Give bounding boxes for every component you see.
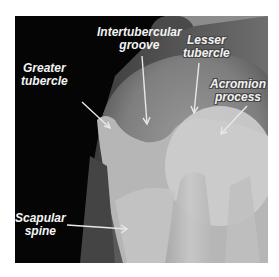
label-greater-tubercle: Greater tubercle (21, 62, 68, 88)
label-lesser-tubercle: Lesser tubercle (183, 34, 230, 60)
label-scapular-spine: Scapular spine (15, 212, 66, 238)
label-intertubercular-groove: Intertubercular groove (97, 26, 182, 52)
label-acromion-process: Acromion process (210, 78, 266, 104)
xray-image: Intertubercular groove Greater tubercle … (15, 16, 268, 263)
